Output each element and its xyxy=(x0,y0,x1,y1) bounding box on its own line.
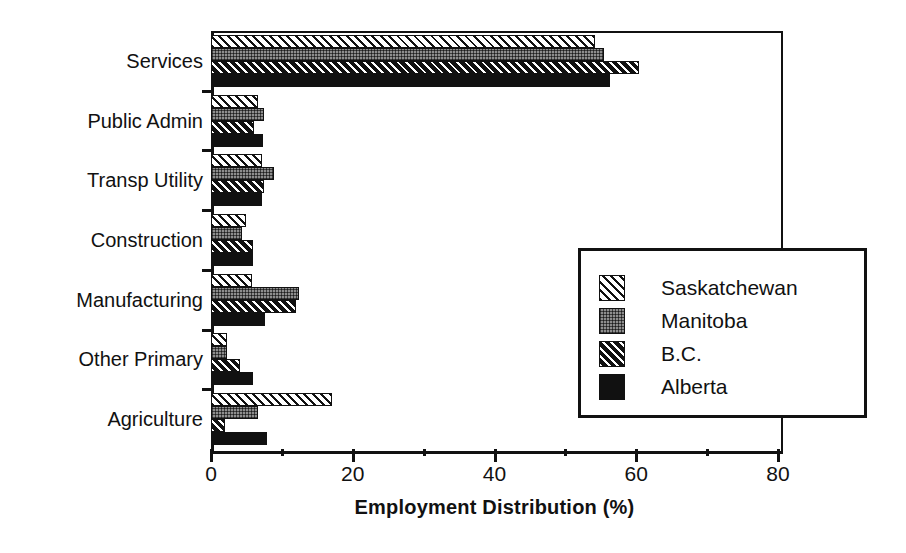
bar-group xyxy=(211,154,778,206)
x-axis-minor-tick xyxy=(423,449,426,456)
x-axis-tick-labels: 020406080 xyxy=(211,462,778,490)
y-axis-category-label: Transp Utility xyxy=(13,169,203,191)
bar xyxy=(211,74,610,87)
bar-group xyxy=(211,35,778,87)
bar xyxy=(211,393,332,406)
bar xyxy=(211,432,267,445)
legend-item[interactable]: Saskatchewan xyxy=(599,273,798,303)
y-axis-category-label: Public Admin xyxy=(13,110,203,132)
bar xyxy=(211,227,242,240)
bar xyxy=(211,180,264,193)
legend-item[interactable]: B.C. xyxy=(599,339,702,369)
bar xyxy=(211,359,240,372)
bar xyxy=(211,167,274,180)
x-axis-tick-label: 20 xyxy=(318,462,388,486)
x-axis-major-tick xyxy=(777,449,780,462)
legend-label: B.C. xyxy=(661,342,702,366)
legend-label: Saskatchewan xyxy=(661,276,798,300)
bar xyxy=(211,372,253,385)
legend-label: Alberta xyxy=(661,375,728,399)
y-axis-category-label: Construction xyxy=(13,229,203,251)
bar xyxy=(211,134,263,147)
x-axis-ticks xyxy=(211,449,778,463)
bar xyxy=(211,121,254,134)
bar xyxy=(211,193,262,206)
y-axis-category-labels: ServicesPublic AdminTransp UtilityConstr… xyxy=(10,31,203,449)
x-axis-major-tick xyxy=(494,449,497,462)
x-axis-minor-tick xyxy=(564,449,567,456)
legend-swatch-icon xyxy=(599,341,625,367)
bar xyxy=(211,61,639,74)
x-axis-label: Employment Distribution (%) xyxy=(211,496,778,519)
x-axis-minor-tick xyxy=(281,449,284,456)
bar xyxy=(211,35,595,48)
bar xyxy=(211,214,246,227)
bar xyxy=(211,419,225,432)
bar xyxy=(211,48,604,61)
legend-swatch-icon xyxy=(599,275,625,301)
y-axis-category-label: Other Primary xyxy=(13,348,203,370)
x-axis-tick-label: 0 xyxy=(176,462,246,486)
x-axis-tick-label: 60 xyxy=(601,462,671,486)
legend-swatch-icon xyxy=(599,374,625,400)
bar xyxy=(211,300,296,313)
legend-swatch-icon xyxy=(599,308,625,334)
bar xyxy=(211,240,253,253)
x-axis-tick-label: 40 xyxy=(460,462,530,486)
employment-distribution-bar-chart: ServicesPublic AdminTransp UtilityConstr… xyxy=(0,0,906,553)
y-axis-category-label: Agriculture xyxy=(13,408,203,430)
legend: SaskatchewanManitobaB.C.Alberta xyxy=(578,248,867,418)
bar xyxy=(211,313,265,326)
legend-item[interactable]: Alberta xyxy=(599,372,728,402)
bar xyxy=(211,287,299,300)
y-axis-category-label: Manufacturing xyxy=(13,289,203,311)
bar xyxy=(211,253,253,266)
bar xyxy=(211,406,258,419)
x-axis-major-tick xyxy=(635,449,638,462)
x-axis-major-tick xyxy=(352,449,355,462)
y-axis-category-label: Services xyxy=(13,50,203,72)
bar xyxy=(211,95,258,108)
x-axis-minor-tick xyxy=(706,449,709,456)
x-axis-major-tick xyxy=(210,449,213,462)
bar-group xyxy=(211,95,778,147)
bar xyxy=(211,274,252,287)
bar xyxy=(211,154,262,167)
x-axis-tick-label: 80 xyxy=(743,462,813,486)
legend-item[interactable]: Manitoba xyxy=(599,306,747,336)
bar xyxy=(211,346,227,359)
bar xyxy=(211,333,227,346)
legend-label: Manitoba xyxy=(661,309,747,333)
bar xyxy=(211,108,264,121)
